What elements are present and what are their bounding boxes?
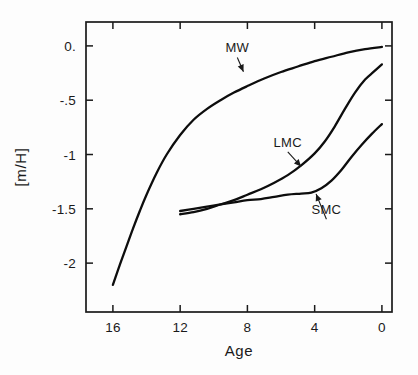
series-annotation-group: MWLMCSMC bbox=[225, 40, 341, 219]
series-label-mw: MW bbox=[225, 40, 249, 55]
y-tick-label-3: -1.5 bbox=[52, 202, 76, 217]
curve-mw bbox=[113, 47, 382, 285]
age-metallicity-plot: 1612840 0.-.5-1-1.5-2 MWLMCSMC Age [m/H] bbox=[0, 0, 418, 375]
x-tick-label-12: 12 bbox=[172, 320, 187, 335]
series-label-lmc: LMC bbox=[274, 135, 302, 150]
x-tick-label-4: 4 bbox=[311, 320, 319, 335]
plot-frame bbox=[86, 22, 392, 312]
x-tick-label-16: 16 bbox=[105, 320, 120, 335]
y-tick-label-1: -.5 bbox=[60, 93, 76, 108]
y-tick-label-2: -1 bbox=[64, 148, 76, 163]
y-tick-label-0: 0. bbox=[64, 39, 76, 54]
data-series-group bbox=[113, 47, 382, 285]
axis-tick-marks bbox=[86, 22, 392, 312]
chart-figure: 1612840 0.-.5-1-1.5-2 MWLMCSMC Age [m/H] bbox=[0, 0, 418, 375]
y-tick-label-4: -2 bbox=[64, 256, 76, 271]
series-label-smc: SMC bbox=[312, 202, 342, 217]
x-tick-label-8: 8 bbox=[244, 320, 252, 335]
x-axis-title: Age bbox=[225, 342, 254, 359]
x-axis-tick-labels: 1612840 bbox=[105, 320, 386, 335]
y-axis-title: [m/H] bbox=[12, 148, 29, 187]
x-tick-label-0: 0 bbox=[378, 320, 386, 335]
y-axis-tick-labels: 0.-.5-1-1.5-2 bbox=[52, 39, 76, 271]
